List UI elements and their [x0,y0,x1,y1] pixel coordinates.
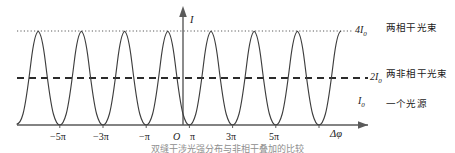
level-value-2I0-sub: 0 [378,77,382,85]
level-value-4I0-sub: 0 [363,30,367,38]
level-value-4I0: 4I0 [355,25,367,38]
legend-label-single-source: 一个光源 [386,99,427,109]
x-axis-arrowhead [358,121,368,129]
y-axis-label: I [190,15,194,26]
x-axis-label: Δφ [330,129,342,140]
interference-intensity-figure: I Δφ 4I0 2I0 I0 两相干光束 两非相干光束 一个光源 −5π −3… [0,0,455,153]
xtick-label-origin: O [173,132,180,142]
xtick-label-3pi: 3π [226,132,236,142]
y-axis-arrowhead [179,6,187,17]
xtick-label-minus3pi: −3π [93,132,109,142]
xtick-label-minus5pi: −5π [50,132,66,142]
xtick-label-5pi: 5π [269,132,279,142]
xtick-label-pi: π [190,132,195,142]
legend-label-incoherent: 两非相干光束 [386,69,447,79]
legend-label-coherent: 两相干光束 [386,23,437,33]
level-value-2I0: 2I0 [370,72,382,85]
figure-caption: 双缝干涉光强分布与非相干叠加的比较 [0,144,455,153]
xtick-label-minuspi: −π [139,132,150,142]
level-value-I0-sub: 0 [361,101,365,109]
level-value-I0: I0 [358,96,365,109]
